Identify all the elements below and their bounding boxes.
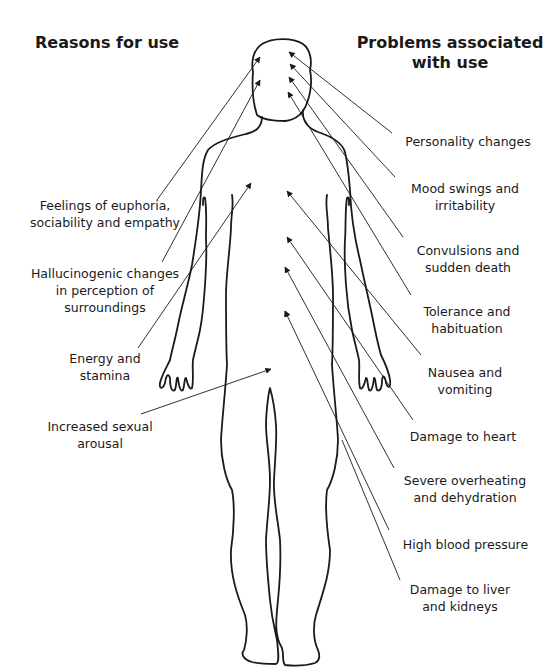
problems-heading-line1: Problems associated <box>355 33 545 53</box>
reason-line: Energy and <box>55 350 155 367</box>
arrow-hallucinogenic <box>162 80 260 262</box>
problems-heading: Problems associated with use <box>355 33 545 73</box>
arrow-liver <box>285 311 400 580</box>
reasons-arrows <box>138 57 271 414</box>
reason-energy: Energy and stamina <box>55 350 155 384</box>
problem-line: Personality changes <box>393 133 543 150</box>
reason-line: arousal <box>30 435 170 452</box>
arrow-euphoria <box>157 57 260 200</box>
problem-line: Severe overheating <box>390 472 540 489</box>
problem-nausea: Nausea and vomiting <box>410 364 520 398</box>
problem-line: Mood swings and <box>395 180 535 197</box>
arrow-liver-line <box>342 440 400 580</box>
reasons-heading: Reasons for use <box>35 33 179 53</box>
problem-line: and kidneys <box>395 598 525 615</box>
reason-line: sociability and empathy <box>25 214 185 231</box>
arrow-heart <box>287 237 413 420</box>
reason-line: Feelings of euphoria, <box>25 197 185 214</box>
problem-line: Nausea and <box>410 364 520 381</box>
reason-line: Increased sexual <box>30 418 170 435</box>
arrow-sexual-arousal <box>141 369 271 414</box>
problem-blood-pressure: High blood pressure <box>388 536 543 553</box>
problem-mood: Mood swings and irritability <box>395 180 535 214</box>
problem-line: habituation <box>402 320 532 337</box>
problem-line: and dehydration <box>390 489 540 506</box>
problem-line: irritability <box>395 197 535 214</box>
reason-euphoria: Feelings of euphoria, sociability and em… <box>25 197 185 231</box>
problem-personality: Personality changes <box>393 133 543 150</box>
reason-line: surroundings <box>25 299 185 316</box>
problem-line: Tolerance and <box>402 303 532 320</box>
problem-overheating: Severe overheating and dehydration <box>390 472 540 506</box>
problem-line: Damage to liver <box>395 581 525 598</box>
problem-liver: Damage to liver and kidneys <box>395 581 525 615</box>
problem-tolerance: Tolerance and habituation <box>402 303 532 337</box>
problem-line: Convulsions and <box>398 242 538 259</box>
reason-hallucinogenic: Hallucinogenic changes in perception of … <box>25 265 185 316</box>
problem-convulsions: Convulsions and sudden death <box>398 242 538 276</box>
problem-heart: Damage to heart <box>398 428 528 445</box>
reason-line: Hallucinogenic changes <box>25 265 185 282</box>
reason-sexual-arousal: Increased sexual arousal <box>30 418 170 452</box>
problem-line: vomiting <box>410 381 520 398</box>
problems-heading-line2: with use <box>355 53 545 73</box>
human-body-outline <box>160 39 390 665</box>
reason-line: in perception of <box>25 282 185 299</box>
problem-line: sudden death <box>398 259 538 276</box>
problem-line: High blood pressure <box>388 536 543 553</box>
arrow-blood-pressure <box>285 311 389 530</box>
problem-line: Damage to heart <box>398 428 528 445</box>
reason-line: stamina <box>55 367 155 384</box>
